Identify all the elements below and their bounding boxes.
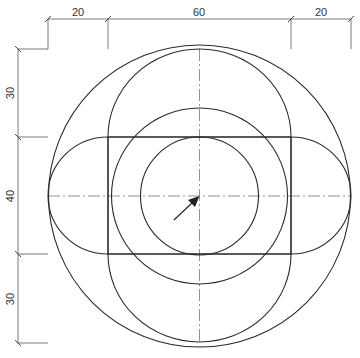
dimension-label-v3: 30 [4, 293, 16, 305]
horizontal-dimension-chain: 20 60 20 [45, 6, 354, 49]
arrow-shaft [174, 202, 193, 220]
dimension-label-h1: 20 [72, 6, 84, 18]
dimension-label-h3: 20 [315, 6, 327, 18]
center-arrow [174, 196, 200, 220]
dimension-label-v2: 40 [4, 190, 16, 202]
dimension-label-v1: 30 [4, 87, 16, 99]
technical-drawing: 20 60 20 30 40 30 [0, 0, 360, 358]
dimension-label-h2: 60 [193, 6, 205, 18]
vertical-dimension-chain: 30 40 30 [4, 46, 48, 346]
